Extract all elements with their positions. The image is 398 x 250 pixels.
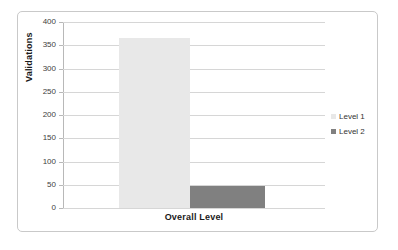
gridline xyxy=(63,22,325,23)
y-axis-tick-mark xyxy=(59,92,63,93)
legend-entry-1: Level 1 xyxy=(331,110,383,123)
y-axis-tick-mark xyxy=(59,138,63,139)
y-axis-tick-mark xyxy=(59,22,63,23)
y-axis-tick-label: 250 xyxy=(26,88,56,96)
plot-area xyxy=(63,22,325,208)
legend-label: Level 1 xyxy=(339,112,365,121)
y-axis-tick-mark xyxy=(59,69,63,70)
y-axis-tick-label: 200 xyxy=(26,111,56,119)
y-axis-tick-label: 150 xyxy=(26,134,56,142)
y-axis-tick-label: 100 xyxy=(26,158,56,166)
legend-swatch-icon xyxy=(331,129,336,134)
gridline xyxy=(63,208,325,209)
gridline xyxy=(63,115,325,116)
y-axis-tick-mark xyxy=(59,45,63,46)
y-axis-tick-label: 350 xyxy=(26,41,56,49)
y-axis-tick-label: 50 xyxy=(26,181,56,189)
gridline xyxy=(63,92,325,93)
chart-legend: Level 1Level 2 xyxy=(331,110,383,140)
gridline xyxy=(63,138,325,139)
legend-label: Level 2 xyxy=(339,127,365,136)
legend-swatch-icon xyxy=(331,114,336,119)
y-axis-tick-label: 0 xyxy=(26,204,56,212)
y-axis-tick-label: 300 xyxy=(26,65,56,73)
bar-level-1 xyxy=(119,38,190,208)
gridline xyxy=(63,162,325,163)
y-axis-tick-mark xyxy=(59,115,63,116)
bar-level-2 xyxy=(190,186,265,208)
y-axis-tick-labels: 400350300250200150100500 xyxy=(22,0,56,250)
y-axis-tick-mark xyxy=(59,208,63,209)
x-axis-title: Overall Level xyxy=(63,212,325,222)
gridline xyxy=(63,45,325,46)
bar-chart-figure: Validations 400350300250200150100500 Ove… xyxy=(0,0,398,250)
legend-entry-2: Level 2 xyxy=(331,125,383,138)
y-axis-tick-mark xyxy=(59,162,63,163)
gridline xyxy=(63,69,325,70)
y-axis-tick-label: 400 xyxy=(26,18,56,26)
y-axis-tick-mark xyxy=(59,185,63,186)
